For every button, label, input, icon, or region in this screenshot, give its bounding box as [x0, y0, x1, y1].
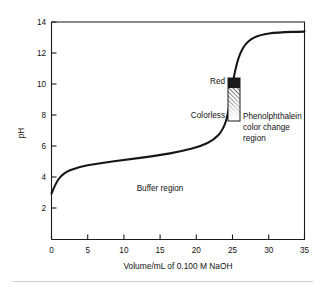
x-tick-label-25: 25: [228, 246, 238, 255]
y-tick-label-10: 10: [37, 80, 47, 89]
x-tick-label-15: 15: [156, 246, 166, 255]
titration-curve-figure: 14 12 10 8 6 4 2 0 5 10 15 20 25 3: [0, 0, 325, 288]
y-tick-label-2: 2: [41, 204, 46, 213]
annotation-indicator-line-1: Phenolphthalein: [243, 112, 302, 121]
phenolphthalein-indicator-box: [228, 78, 240, 121]
y-axis-ticks: [52, 22, 57, 208]
x-tick-label-35: 35: [300, 246, 310, 255]
y-tick-label-14: 14: [37, 18, 47, 27]
x-tick-label-5: 5: [85, 246, 90, 255]
x-tick-label-20: 20: [192, 246, 202, 255]
x-tick-label-10: 10: [119, 246, 129, 255]
y-tick-label-6: 6: [41, 142, 46, 151]
y-tick-label-4: 4: [41, 173, 46, 182]
y-tick-label-8: 8: [41, 111, 46, 120]
annotation-red: Red: [210, 77, 225, 86]
y-axis-title: pH: [16, 128, 26, 139]
x-tick-label-30: 30: [264, 246, 274, 255]
indicator-box-hatch-gradient: [228, 78, 240, 121]
x-axis-title: Volume/mL of 0.100 M NaOH: [123, 261, 232, 271]
y-axis-tick-labels: 14 12 10 8 6 4 2: [37, 18, 47, 213]
y-tick-label-12: 12: [37, 49, 47, 58]
annotation-indicator-line-2: color change: [243, 123, 290, 132]
x-axis-ticks: [52, 235, 305, 240]
annotation-indicator-line-3: region: [243, 134, 266, 143]
annotation-buffer-region: Buffer region: [137, 184, 184, 193]
annotation-colorless: Colorless: [191, 111, 225, 120]
x-axis-tick-labels: 0 5 10 15 20 25 30 35: [49, 246, 309, 255]
titration-chart: 14 12 10 8 6 4 2 0 5 10 15 20 25 3: [0, 0, 325, 288]
x-tick-label-0: 0: [49, 246, 54, 255]
